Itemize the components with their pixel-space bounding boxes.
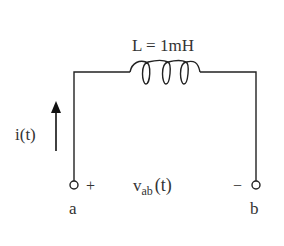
voltage-subscript: ab [142,184,153,198]
terminal-a-node [70,181,78,189]
terminal-b-node [252,181,260,189]
terminal-b-label: b [250,199,259,218]
wires [74,72,256,181]
voltage-suffix: (t) [155,175,172,196]
right-wire [200,72,256,181]
inductor-label: L = 1mH [132,36,194,55]
inductor-icon [130,61,200,85]
terminal-b-polarity: − [233,177,242,194]
voltage-label: vab(t) [133,175,172,198]
current-label: i(t) [15,125,36,144]
circuit-diagram: L = 1mH i(t) + a − b vab(t) [0,0,284,246]
left-wire [74,72,130,181]
current-arrow-icon [51,101,61,151]
terminal-a-polarity: + [86,177,95,194]
terminal-a-label: a [69,199,77,218]
